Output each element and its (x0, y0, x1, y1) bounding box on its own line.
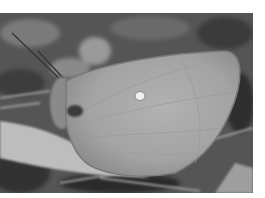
butterfly-photo (0, 13, 253, 193)
wing-spot (135, 92, 145, 101)
photo-canvas (0, 13, 253, 193)
